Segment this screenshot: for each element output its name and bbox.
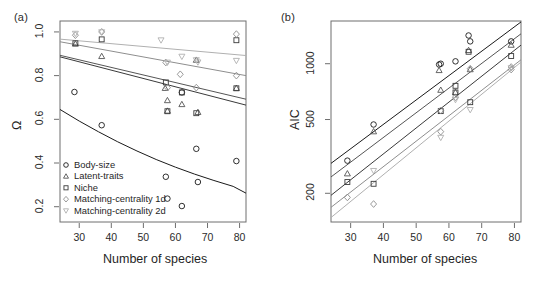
legend-item-latent-traits: Latent-traits bbox=[74, 170, 124, 181]
figure-container: (a) Number of species Ω (b) Number of sp… bbox=[0, 0, 534, 282]
plot-frame bbox=[331, 21, 521, 222]
y-tick-label: 200 bbox=[304, 179, 316, 205]
x-tick-label: 50 bbox=[408, 231, 424, 243]
data-point-circle bbox=[466, 33, 472, 39]
x-tick-label: 60 bbox=[167, 231, 183, 243]
x-tick-label: 40 bbox=[103, 231, 119, 243]
x-tick-label: 80 bbox=[506, 231, 522, 243]
data-point-triangle-up bbox=[344, 171, 350, 176]
y-tick-label: 0.8 bbox=[33, 62, 45, 88]
y-tick-label: 1.0 bbox=[33, 18, 45, 44]
legend-item-matching-centrality-2d: Matching-centrality 2d bbox=[74, 205, 166, 216]
data-point-triangle-up bbox=[436, 67, 442, 72]
data-point-circle bbox=[467, 39, 473, 45]
legend-item-matching-centrality-1d: Matching-centrality 1d bbox=[74, 193, 166, 204]
fit-line-latent-traits bbox=[331, 34, 521, 177]
panel-b-ylabel: AIC bbox=[288, 109, 302, 130]
data-point-triangle-down bbox=[438, 135, 444, 140]
data-point-triangle-up bbox=[438, 87, 444, 92]
x-tick-label: 50 bbox=[135, 231, 151, 243]
x-tick-label: 40 bbox=[375, 231, 391, 243]
fit-line-matching-centrality-1d bbox=[331, 60, 521, 208]
x-tick-label: 70 bbox=[200, 231, 216, 243]
x-tick-label: 70 bbox=[474, 231, 490, 243]
y-tick-label: 0.2 bbox=[33, 193, 45, 219]
y-tick-label: 500 bbox=[304, 106, 316, 132]
x-tick-label: 30 bbox=[71, 231, 87, 243]
panel-b-xlabel: Number of species bbox=[373, 252, 477, 266]
legend-item-niche: Niche bbox=[74, 182, 98, 193]
x-tick-label: 30 bbox=[343, 231, 359, 243]
data-point-circle bbox=[453, 59, 459, 65]
fit-line-matching-centrality-2d bbox=[331, 62, 521, 217]
y-tick-label: 1000 bbox=[304, 50, 316, 76]
fit-line-niche bbox=[331, 45, 521, 195]
x-tick-label: 60 bbox=[441, 231, 457, 243]
data-point-circle bbox=[371, 122, 377, 128]
y-tick-label: 0.4 bbox=[33, 149, 45, 175]
fit-line-body-size bbox=[331, 22, 521, 163]
data-point-triangle-down bbox=[467, 108, 473, 113]
y-tick-label: 0.6 bbox=[33, 105, 45, 131]
data-point-diamond bbox=[371, 201, 377, 208]
legend-item-body-size: Body-size bbox=[74, 159, 115, 170]
data-point-circle bbox=[345, 158, 351, 164]
x-tick-label: 80 bbox=[232, 231, 248, 243]
